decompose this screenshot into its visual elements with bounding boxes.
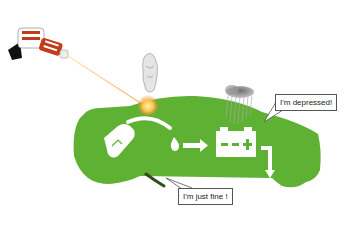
ray-gun-icon [8,28,68,60]
speech-bubble-depressed: I'm depressed! [275,94,337,111]
blast-icon [137,95,159,117]
battery-icon [216,127,256,157]
laser-beam [66,54,147,108]
speech-bubble-fine: I'm just fine ! [178,188,233,205]
ghost-figure-icon [143,53,158,92]
